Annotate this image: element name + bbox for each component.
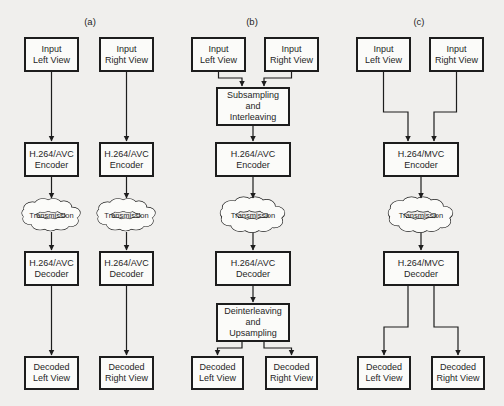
node-b-deinterleaving: Deinterleaving and Upsampling (216, 303, 290, 342)
figure-canvas: Transmission Transmission Transmission T… (0, 0, 504, 406)
arrow-c-decoder-to-decoded-right (434, 286, 458, 355)
node-a-decoder-left: H.264/AVC Decoder (24, 251, 79, 286)
node-b-input-right: Input Right View (264, 37, 319, 72)
node-a-encoder-right: H.264/AVC Encoder (99, 142, 154, 177)
node-a-encoder-left: H.264/AVC Encoder (24, 142, 79, 177)
arrow-b-deinterleaving-to-decoded-right (264, 342, 292, 355)
panel-label-a: (a) (70, 16, 110, 27)
node-a-input-right: Input Right View (99, 37, 154, 72)
transmission-label-c: Transmission (399, 211, 443, 220)
transmission-label-a-left: Transmission (29, 211, 73, 220)
arrow-c-input-right-to-encoder (434, 72, 457, 141)
node-b-input-left: Input Left View (191, 37, 246, 72)
arrow-b-input-left-to-subsampling (219, 72, 243, 86)
transmission-label-b: Transmission (231, 211, 275, 220)
node-a-decoder-right: H.264/AVC Decoder (99, 251, 154, 286)
node-c-decoded-left: Decoded Left View (357, 356, 411, 390)
node-b-encoder: H.264/AVC Encoder (215, 142, 291, 177)
node-c-encoder: H.264/MVC Encoder (383, 142, 459, 177)
node-b-decoded-left: Decoded Left View (191, 356, 244, 390)
node-c-decoded-right: Decoded Right View (431, 356, 485, 390)
arrow-b-input-right-to-subsampling (264, 72, 292, 86)
arrow-c-input-left-to-encoder (384, 72, 409, 141)
node-c-input-right: Input Right View (429, 37, 484, 72)
node-b-subsampling: Subsampling and Interleaving (216, 87, 290, 126)
panel-label-c: (c) (399, 16, 439, 27)
panel-label-b: (b) (232, 16, 272, 27)
node-c-decoder: H.264/MVC Decoder (383, 251, 459, 286)
arrow-b-deinterleaving-to-decoded-left (218, 342, 243, 355)
node-a-decoded-right: Decoded Right View (99, 356, 154, 390)
node-b-decoded-right: Decoded Right View (265, 356, 318, 390)
arrow-c-decoder-to-decoded-left (384, 286, 408, 355)
node-a-decoded-left: Decoded Left View (24, 356, 79, 390)
node-a-input-left: Input Left View (24, 37, 79, 72)
transmission-label-a-right: Transmission (104, 211, 148, 220)
node-b-decoder: H.264/AVC Decoder (215, 251, 291, 286)
node-c-input-left: Input Left View (356, 37, 411, 72)
